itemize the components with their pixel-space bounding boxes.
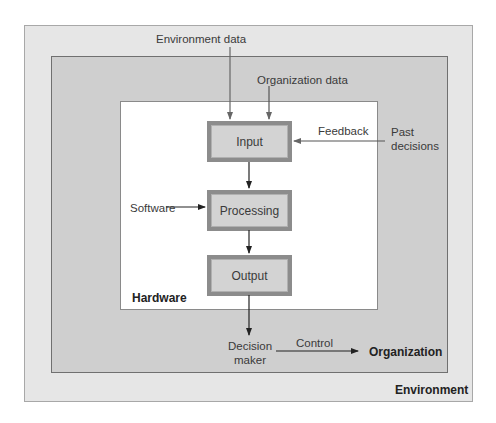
organization-data-label: Organization data bbox=[257, 73, 348, 87]
past-decisions-label: Past decisions bbox=[391, 125, 439, 153]
organization-label: Organization bbox=[369, 345, 442, 359]
environment-data-label: Environment data bbox=[156, 32, 246, 46]
feedback-label: Feedback bbox=[318, 124, 369, 138]
software-label: Software bbox=[130, 201, 175, 215]
hardware-label: Hardware bbox=[132, 291, 187, 305]
decision-maker-label: Decision maker bbox=[228, 339, 272, 367]
environment-label: Environment bbox=[395, 383, 468, 397]
control-label: Control bbox=[296, 336, 333, 350]
